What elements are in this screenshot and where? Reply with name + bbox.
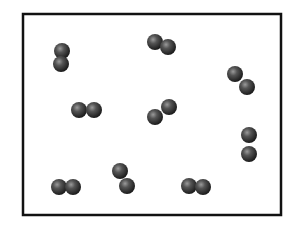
molecule-diagram — [0, 0, 296, 227]
atom-sphere — [86, 102, 102, 118]
atom-sphere — [71, 102, 87, 118]
atom-sphere — [65, 179, 81, 195]
molecule — [147, 99, 177, 125]
atom-sphere — [51, 179, 67, 195]
molecule — [112, 163, 135, 194]
molecule — [227, 66, 255, 95]
molecule — [181, 178, 211, 195]
atom-sphere — [112, 163, 128, 179]
atom-sphere — [161, 99, 177, 115]
molecule — [147, 34, 176, 55]
atom-sphere — [119, 178, 135, 194]
molecule — [53, 43, 70, 72]
atom-sphere — [241, 127, 257, 143]
atom-sphere — [239, 79, 255, 95]
molecule — [241, 127, 257, 162]
atom-sphere — [195, 179, 211, 195]
atom-sphere — [227, 66, 243, 82]
atom-sphere — [241, 146, 257, 162]
molecule — [71, 102, 102, 118]
atom-sphere — [181, 178, 197, 194]
molecule — [51, 179, 81, 195]
atom-sphere — [53, 56, 69, 72]
molecules-group — [51, 34, 257, 195]
atom-sphere — [160, 39, 176, 55]
atom-sphere — [147, 109, 163, 125]
